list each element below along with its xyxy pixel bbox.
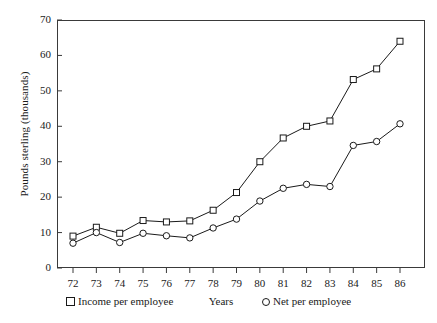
x-tick-label: 83 bbox=[318, 277, 342, 289]
x-tick-label: 78 bbox=[201, 277, 225, 289]
legend-item-income: Income per employee bbox=[66, 295, 173, 307]
legend-label-net: Net per employee bbox=[273, 295, 351, 307]
x-tick-label: 85 bbox=[365, 277, 389, 289]
x-axis-title: Years bbox=[181, 295, 261, 307]
y-tick-label: 20 bbox=[25, 191, 51, 202]
x-tick-label: 79 bbox=[225, 277, 249, 289]
x-tick-label: 73 bbox=[84, 277, 108, 289]
x-tick-label: 82 bbox=[295, 277, 319, 289]
plot-area bbox=[57, 20, 425, 268]
x-tick-label: 72 bbox=[61, 277, 85, 289]
x-tick-label: 74 bbox=[108, 277, 132, 289]
x-tick-label: 81 bbox=[271, 277, 295, 289]
y-tick-label: 0 bbox=[25, 262, 51, 273]
chart-page: Pounds sterling (thousands) 010203040506… bbox=[0, 0, 437, 323]
x-tick-label: 84 bbox=[341, 277, 365, 289]
x-tick-label: 86 bbox=[388, 277, 412, 289]
y-tick-label: 40 bbox=[25, 120, 51, 131]
y-tick-label: 70 bbox=[25, 14, 51, 25]
square-marker-icon bbox=[66, 297, 75, 306]
legend-item-net: Net per employee bbox=[262, 295, 351, 307]
y-tick-label: 30 bbox=[25, 156, 51, 167]
x-tick-label: 77 bbox=[178, 277, 202, 289]
x-axis-ticks bbox=[73, 268, 400, 273]
legend-label-income: Income per employee bbox=[78, 295, 173, 307]
y-tick-label: 60 bbox=[25, 49, 51, 60]
y-tick-label: 10 bbox=[25, 227, 51, 238]
x-tick-label: 76 bbox=[154, 277, 178, 289]
circle-marker-icon bbox=[262, 298, 270, 306]
x-tick-label: 75 bbox=[131, 277, 155, 289]
x-tick-label: 80 bbox=[248, 277, 272, 289]
y-tick-label: 50 bbox=[25, 85, 51, 96]
